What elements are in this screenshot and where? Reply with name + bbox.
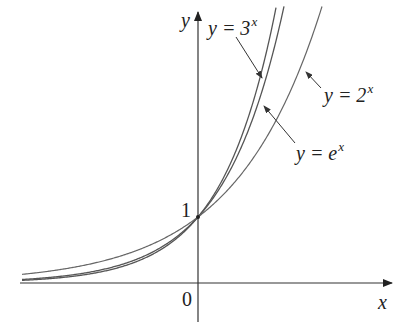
curve-e-power-x [22, 6, 284, 279]
label-2-exp: x [367, 81, 373, 96]
x-axis-label: x [378, 292, 387, 312]
y-tick-one-label: 1 [181, 200, 191, 220]
curve-3-power-x [22, 8, 276, 281]
arrow-2-power-x [306, 72, 321, 88]
curve-2-power-x [22, 7, 322, 275]
plot-canvas [0, 0, 414, 331]
label-2-base: y = 2 [324, 84, 366, 106]
arrow-e-power-x [264, 106, 295, 143]
origin-label: 0 [182, 289, 192, 309]
exponential-functions-graph: y x 0 1 y = 3x y = 2x y = ex [0, 0, 414, 331]
label-e-base: y = e [296, 142, 337, 164]
label-3-power-x: y = 3x [208, 15, 257, 38]
label-3-base: y = 3 [208, 17, 250, 39]
label-e-exp: x [338, 139, 344, 154]
label-e-power-x: y = ex [296, 140, 344, 163]
y-axis-label: y [181, 10, 190, 30]
label-2-power-x: y = 2x [324, 82, 373, 105]
y-intercept-point [196, 215, 200, 219]
label-3-exp: x [251, 14, 257, 29]
arrow-3-power-x [236, 37, 262, 78]
